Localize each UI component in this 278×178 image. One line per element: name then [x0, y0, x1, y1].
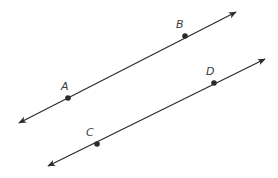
- point-b-label: B: [176, 18, 184, 31]
- line-cd: C D: [48, 59, 265, 166]
- point-c-label: C: [86, 126, 94, 139]
- line-cd-segment: [48, 59, 265, 166]
- point-a-label: A: [60, 80, 69, 93]
- point-b-dot: [182, 33, 188, 39]
- point-d-dot: [211, 80, 217, 86]
- line-ab-segment: [19, 12, 236, 123]
- point-c-dot: [94, 141, 100, 147]
- point-a-dot: [65, 95, 71, 101]
- point-d-label: D: [206, 65, 214, 78]
- line-ab: A B: [19, 12, 236, 123]
- parallel-lines-diagram: A B C D: [0, 0, 278, 178]
